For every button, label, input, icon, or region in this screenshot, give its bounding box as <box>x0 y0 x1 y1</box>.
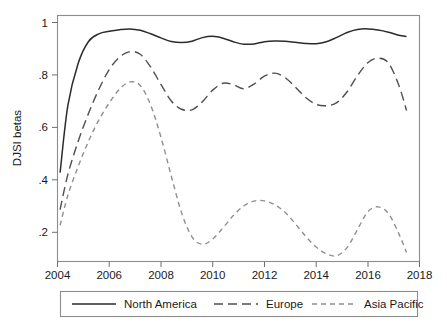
legend-label-north-america: North America <box>124 298 197 310</box>
chart-legend: North America Europe Asia Pacific <box>61 292 424 317</box>
x-tick-label-2016: 2016 <box>355 269 381 281</box>
y-tick-label-06: .6 <box>38 121 48 133</box>
y-axis-title: DJSI betas <box>11 110 23 166</box>
y-tick-label-1: 1 <box>42 17 48 29</box>
legend-label-europe: Europe <box>266 298 303 310</box>
x-tick-label-2018: 2018 <box>407 269 433 281</box>
x-tick-label-2008: 2008 <box>148 269 174 281</box>
x-tick-label-2012: 2012 <box>252 269 278 281</box>
x-tick-label-2004: 2004 <box>45 269 71 281</box>
y-tick-label-02: .2 <box>38 226 48 238</box>
x-tick-label-2014: 2014 <box>303 269 329 281</box>
y-tick-label-08: .8 <box>38 69 48 81</box>
x-tick-label-2010: 2010 <box>200 269 226 281</box>
legend-label-asia-pacific: Asia Pacific <box>364 298 424 310</box>
x-tick-label-2006: 2006 <box>96 269 122 281</box>
chart-figure: 1 .8 .6 .4 .2 DJSI betas 2004 2006 2008 … <box>0 0 447 322</box>
djsi-betas-line-chart: 1 .8 .6 .4 .2 DJSI betas 2004 2006 2008 … <box>0 0 447 322</box>
y-tick-label-04: .4 <box>38 174 48 186</box>
